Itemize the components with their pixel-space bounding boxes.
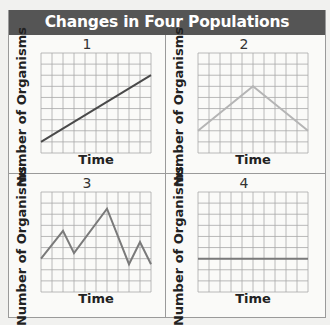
panel-number: 3 [9,175,165,191]
x-axis-label: Time [198,152,308,167]
y-axis-label: Number of Organisms [11,43,31,171]
y-axis-label: Number of Organisms [168,182,188,310]
panel-number: 4 [166,175,322,191]
line-plot [197,52,309,154]
figure-title: Changes in Four Populations [9,10,325,35]
y-axis-label: Number of Organisms [11,182,31,310]
panel-3: 3 Number of Organisms Time [9,174,165,312]
line-plot [40,52,152,154]
panel-1: 1 Number of Organisms Time [9,35,165,173]
panel-number: 2 [166,36,322,52]
y-axis-label: Number of Organisms [168,43,188,171]
panel-2: 2 Number of Organisms Time [166,35,322,173]
panel-number: 1 [9,36,165,52]
figure-frame: Changes in Four Populations 1 Number of … [8,10,326,318]
panel-4: 4 Number of Organisms Time [166,174,322,312]
x-axis-label: Time [198,291,308,306]
x-axis-label: Time [41,291,151,306]
line-plot [197,191,309,293]
line-plot [40,191,152,293]
x-axis-label: Time [41,152,151,167]
